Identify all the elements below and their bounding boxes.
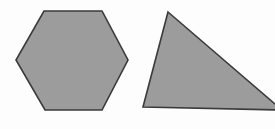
shape-canvas [0,0,275,129]
triangle-shape [143,12,275,110]
shapes-illustration [0,0,275,129]
hexagon-shape [16,11,128,110]
